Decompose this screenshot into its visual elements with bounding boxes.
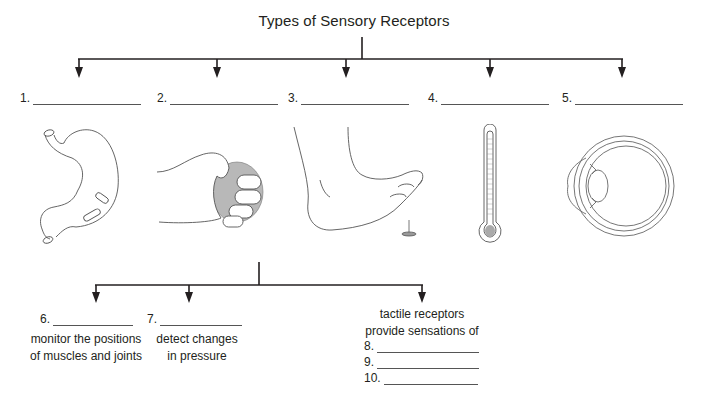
answer-line[interactable] [441,92,549,105]
arrow-down-icon [618,67,626,78]
answer-line[interactable] [160,313,242,326]
answer-blank-2[interactable]: 2. [157,91,278,105]
arrow-down-icon [92,292,100,303]
answer-blank-5[interactable]: 5. [562,91,683,105]
eye-cross-section-illustration [560,126,675,244]
answer-blank-7[interactable]: 7. [147,312,242,326]
description-7: detect changes in pressure [155,331,239,365]
description-6: monitor the positions of muscles and joi… [22,331,150,365]
foot-on-tack-illustration [290,125,435,245]
answer-blank-6[interactable]: 6. [40,312,133,326]
arrow-down-icon [342,67,350,78]
answer-blank-8[interactable]: 8. [364,339,479,353]
answer-line[interactable] [377,340,479,353]
answer-line[interactable] [33,92,141,105]
arrow-down-icon [486,67,494,78]
answer-blank-1[interactable]: 1. [20,91,141,105]
stomach-illustration [28,125,128,247]
arrow-down-icon [75,67,83,78]
tactile-intro: tactile receptors provide sensations of [362,306,482,340]
answer-line[interactable] [53,313,133,326]
answer-line[interactable] [301,92,409,105]
arrow-down-icon [213,67,221,78]
answer-line[interactable] [384,372,478,385]
thermometer-illustration [477,124,503,246]
answer-blank-9[interactable]: 9. [364,355,479,369]
answer-blank-10[interactable]: 10. [364,371,478,385]
arrow-down-icon [185,292,193,303]
answer-line[interactable] [170,92,278,105]
answer-blank-3[interactable]: 3. [288,91,409,105]
answer-blank-4[interactable]: 4. [428,91,549,105]
hand-squeezing-ball-illustration [155,150,275,230]
arrow-down-icon [418,292,426,303]
answer-line[interactable] [377,356,479,369]
answer-line[interactable] [575,92,683,105]
